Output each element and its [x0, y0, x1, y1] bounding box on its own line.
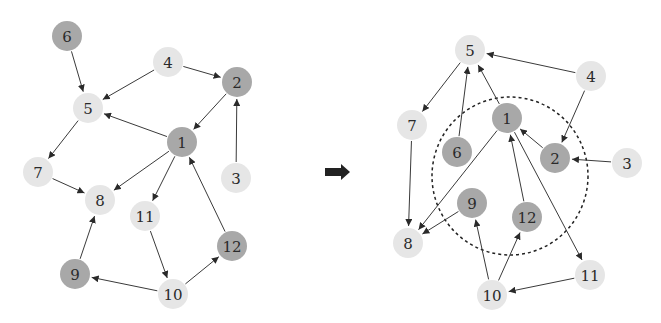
- node-after-5: 5: [455, 35, 485, 65]
- node-label: 12: [517, 209, 536, 227]
- node-label: 11: [580, 267, 599, 285]
- graph-transformation-diagram: 123456789101112123456789101112: [0, 0, 661, 323]
- node-label: 10: [163, 286, 182, 304]
- node-label: 3: [231, 170, 241, 188]
- edge-before-3-to-2: [236, 99, 237, 162]
- edge-before-7-to-8: [53, 179, 85, 193]
- edge-before-12-to-1: [189, 157, 225, 231]
- node-label: 10: [482, 287, 501, 305]
- edge-before-1-to-5: [104, 114, 167, 137]
- node-before-1: 1: [167, 127, 197, 157]
- node-before-8: 8: [85, 185, 115, 215]
- node-label: 5: [83, 100, 93, 118]
- node-label: 12: [222, 238, 241, 256]
- node-after-6: 6: [442, 137, 472, 167]
- node-after-4: 4: [576, 61, 606, 91]
- node-label: 7: [33, 164, 43, 182]
- node-after-9: 9: [457, 188, 487, 218]
- node-after-1: 1: [492, 103, 522, 133]
- node-label: 11: [135, 208, 154, 226]
- node-label: 1: [177, 134, 187, 152]
- edge-after-2-to-1: [520, 129, 543, 148]
- node-before-3: 3: [221, 163, 251, 193]
- edge-after-7-to-8: [409, 141, 412, 226]
- edge-before-5-to-7: [48, 121, 78, 159]
- edge-after-11-to-10: [509, 278, 575, 291]
- node-label: 2: [232, 74, 242, 92]
- node-after-10: 10: [477, 280, 507, 310]
- edge-before-6-to-5: [71, 51, 83, 91]
- node-label: 1: [502, 110, 512, 128]
- edge-after-3-to-2: [572, 159, 611, 162]
- node-layer: 123456789101112123456789101112: [23, 21, 642, 310]
- edge-after-5-to-7: [422, 63, 460, 112]
- edge-before-4-to-5: [103, 70, 154, 100]
- node-label: 9: [70, 266, 80, 284]
- node-label: 6: [62, 28, 72, 46]
- node-before-4: 4: [153, 47, 183, 77]
- edge-after-10-to-9: [476, 220, 489, 280]
- node-after-11: 11: [575, 260, 605, 290]
- node-label: 8: [403, 235, 413, 253]
- edge-before-2-to-1: [193, 94, 226, 130]
- node-before-9: 9: [60, 259, 90, 289]
- node-label: 2: [550, 150, 560, 168]
- graph-before: 123456789101112: [23, 21, 252, 309]
- node-label: 4: [163, 54, 173, 72]
- node-label: 9: [467, 195, 477, 213]
- edge-before-9-to-8: [80, 216, 94, 259]
- node-before-10: 10: [158, 279, 188, 309]
- edge-before-10-to-12: [185, 257, 218, 284]
- node-after-7: 7: [397, 110, 427, 140]
- edge-after-12-to-1: [510, 135, 523, 202]
- node-before-2: 2: [222, 67, 252, 97]
- node-before-5: 5: [73, 93, 103, 123]
- node-after-2: 2: [540, 143, 570, 173]
- edge-before-10-to-9: [92, 277, 158, 290]
- edge-before-4-to-2: [183, 66, 220, 77]
- edge-before-1-to-11: [153, 156, 175, 200]
- node-before-11: 11: [130, 201, 160, 231]
- edge-before-11-to-10: [150, 231, 167, 278]
- node-label: 4: [586, 68, 596, 86]
- node-before-7: 7: [23, 157, 53, 187]
- node-label: 8: [95, 192, 105, 210]
- edge-after-10-to-12: [499, 233, 520, 281]
- node-before-6: 6: [52, 21, 82, 51]
- node-before-12: 12: [217, 231, 247, 261]
- node-label: 5: [465, 42, 475, 60]
- edge-after-4-to-2: [562, 91, 585, 143]
- node-after-12: 12: [512, 202, 542, 232]
- node-label: 6: [452, 144, 462, 162]
- edge-after-1-to-5: [478, 65, 499, 104]
- node-after-3: 3: [612, 148, 642, 178]
- node-label: 3: [622, 155, 632, 173]
- transition-arrow: [325, 164, 350, 180]
- edge-after-4-to-5: [487, 54, 576, 73]
- edge-after-6-to-5: [459, 67, 468, 136]
- node-after-8: 8: [393, 228, 423, 258]
- right-arrow-icon: [325, 164, 350, 180]
- node-label: 7: [407, 117, 417, 135]
